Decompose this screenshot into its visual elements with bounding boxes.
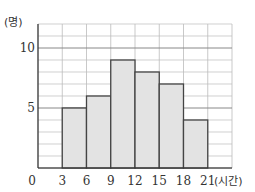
x-tick-label: 0	[28, 174, 36, 188]
histogram-bar	[135, 72, 159, 168]
histogram-bar	[184, 120, 208, 168]
y-axis-label: (명)	[4, 16, 23, 29]
histogram-bar	[62, 108, 86, 168]
y-tick-label: 10	[20, 41, 35, 55]
histogram-bar	[159, 84, 183, 168]
x-tick-label: 3	[58, 174, 66, 188]
x-tick-label: 6	[83, 174, 91, 188]
histogram-chart: 036912151821510 (명) (시간)	[0, 0, 255, 192]
x-tick-label: 9	[107, 174, 115, 188]
histogram-bar	[87, 96, 111, 168]
x-tick-label: 15	[152, 174, 167, 188]
histogram-bars	[62, 60, 208, 168]
x-tick-label: 18	[176, 174, 191, 188]
y-tick-label: 5	[27, 101, 35, 115]
histogram-bar	[111, 60, 135, 168]
x-tick-label: 12	[127, 174, 142, 188]
x-axis-label: (시간)	[214, 175, 243, 188]
